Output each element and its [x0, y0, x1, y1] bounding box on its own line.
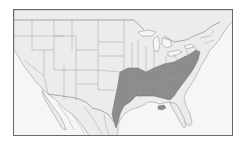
range-map: [14, 10, 233, 136]
map-frame: [13, 9, 233, 136]
